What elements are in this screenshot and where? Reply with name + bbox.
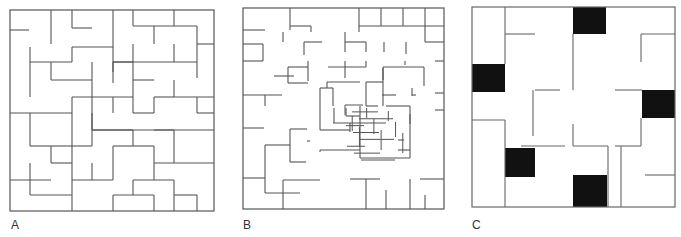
maze-c-black-cell	[505, 148, 535, 177]
maze-c-drawing	[0, 0, 681, 237]
maze-c-black-cell	[472, 64, 505, 92]
maze-c-black-cell	[573, 7, 606, 34]
maze-c-black-cell	[573, 175, 607, 207]
panel-label-c: C	[472, 218, 481, 232]
maze-c-black-cell	[642, 90, 675, 118]
maze-panel-c: C	[0, 0, 681, 237]
